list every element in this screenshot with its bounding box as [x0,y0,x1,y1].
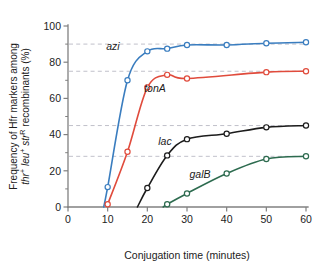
datapoint-tonA-10 [105,202,110,207]
x-tick-label-50: 50 [260,213,272,225]
datapoint-lac-60 [303,123,308,128]
datapoint-azi-40 [224,42,229,47]
datapoint-lac-30 [184,137,189,142]
datapoint-lac-40 [224,131,229,136]
azi-label: azi [106,40,120,52]
axes-group [68,25,308,207]
curve-tonA [108,71,306,204]
y-ticks-group: 020406080100 [43,20,68,213]
y-axis-title-line1: Frequency of Hfr markers among [8,43,19,190]
datapoint-galB-30 [184,191,189,196]
line-chart-canvas: 020406080100 0102030405060 azitonAlacgal… [0,0,319,267]
x-axis-title: Conjugation time (minutes) [124,249,249,261]
x-tick-label-0: 0 [65,213,71,225]
y-tick-label-20: 20 [49,165,61,177]
datapoint-azi-15 [125,78,130,83]
datapoint-tonA-60 [303,69,308,74]
x-tick-label-10: 10 [102,213,114,225]
y-axis-title: Frequency of Hfr markers amongthr+ leu+ … [8,43,31,190]
y-axis-title-line2: thr+ leu+ strR recombinants (%) [18,48,32,184]
conjugation-chart-figure: 020406080100 0102030405060 azitonAlacgal… [0,0,319,267]
y-tick-label-40: 40 [49,128,61,140]
datapoint-azi-20 [145,49,150,54]
tonA-label: tonA [144,82,166,94]
series-tonA [105,69,309,207]
y-tick-label-60: 60 [49,92,61,104]
series-labels-group: azitonAlacgalB [106,40,210,180]
x-tick-label-20: 20 [141,213,153,225]
x-tick-label-30: 30 [181,213,193,225]
datapoint-lac-20 [145,185,150,190]
y-tick-label-80: 80 [49,56,61,68]
datapoint-azi-25 [165,46,170,51]
x-tick-label-40: 40 [221,213,233,225]
datapoint-tonA-50 [264,70,269,75]
datapoint-azi-60 [303,40,308,45]
curve-galB [163,156,306,207]
x-tick-label-60: 60 [300,213,312,225]
datapoint-tonA-25 [165,72,170,77]
galB-label: galB [189,168,210,180]
datapoint-azi-10 [105,184,110,189]
datapoint-galB-60 [303,154,308,159]
y-axis-title-rotated: Frequency of Hfr markers amongthr+ leu+ … [8,43,31,190]
datapoint-tonA-15 [125,149,130,154]
datapoint-tonA-30 [184,76,189,81]
datapoint-galB-40 [224,171,229,176]
y-tick-label-100: 100 [43,20,61,32]
datapoint-galB-25 [165,202,170,207]
curve-azi [104,42,306,207]
series-azi [104,40,309,207]
datapoint-lac-50 [264,125,269,130]
datapoint-azi-30 [184,42,189,47]
datapoint-galB-50 [264,156,269,161]
y-tick-label-0: 0 [55,201,61,213]
lac-label: lac [158,135,172,147]
x-ticks-group: 0102030405060 [65,207,312,225]
datapoint-azi-50 [264,41,269,46]
series-group [104,40,309,207]
series-galB [163,154,308,207]
datapoint-lac-25 [165,153,170,158]
